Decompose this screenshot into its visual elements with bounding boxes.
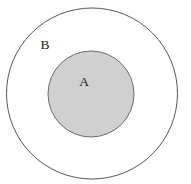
- set-a-label: A: [79, 74, 89, 89]
- euler-diagram-svg: B A: [0, 0, 191, 184]
- euler-diagram-canvas: B A: [0, 0, 191, 184]
- set-b-label: B: [40, 37, 49, 52]
- set-a-circle[interactable]: [48, 51, 134, 137]
